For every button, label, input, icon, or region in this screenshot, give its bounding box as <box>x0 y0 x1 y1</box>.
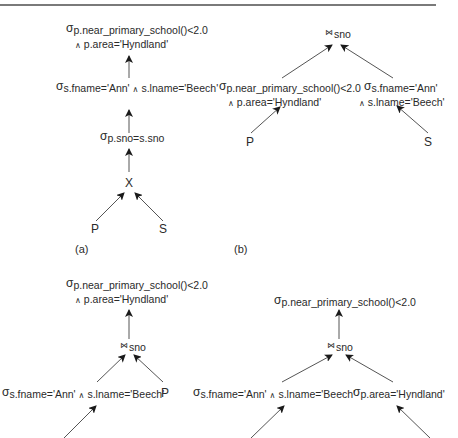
and-icon: ∧ <box>270 391 276 400</box>
panel-c-root-select-line1: σp.near_primary_school()<2.0 <box>66 277 208 289</box>
and-icon: ∧ <box>75 41 81 50</box>
panel-d-select-s: σs.fname='Ann'∧s.lname='Beech' <box>193 386 355 400</box>
panel-a-caption: (a) <box>75 243 88 255</box>
panel-a-root-select-line1: σp.near_primary_school()<2.0 <box>66 22 208 34</box>
panel-a-select-join: σp.sno=s.sno <box>100 130 164 142</box>
panel-b-join: ⋈sno <box>325 28 351 42</box>
and-icon: ∧ <box>75 296 81 305</box>
panel-d-root-select: σp.near_primary_school()<2.0 <box>274 294 416 306</box>
panel-c-join: ⋈sno <box>120 341 146 355</box>
join-icon: ⋈ <box>325 28 333 37</box>
and-icon: ∧ <box>359 99 365 108</box>
and-icon: ∧ <box>228 99 234 108</box>
panel-a-leaf-p: P <box>91 223 99 235</box>
panel-a-root-select-line2: ∧p.area='Hyndland' <box>72 38 168 52</box>
panel-c-leaf-p: P <box>161 387 169 399</box>
panel-d-join: ⋈sno <box>327 341 353 355</box>
panel-b-select-s-line1: σs.fname='Ann' <box>364 80 438 92</box>
panel-b-select-p-line2: ∧p.area='Hyndland' <box>225 96 321 110</box>
join-icon: ⋈ <box>120 341 128 350</box>
join-icon: ⋈ <box>327 341 335 350</box>
panel-b-leaf-p: P <box>246 136 254 148</box>
panel-b-caption: (b) <box>234 243 247 255</box>
panel-b-select-p-line1: σp.near_primary_school()<2.0 <box>219 80 361 92</box>
panel-a-select-s: σs.fname='Ann'∧s.lname='Beech' <box>56 80 218 94</box>
panel-c-select-s: σs.fname='Ann'∧s.lname='Beech' <box>2 386 164 400</box>
tree-edges <box>0 0 458 438</box>
panel-b-select-s-line2: ∧s.lname='Beech' <box>356 96 445 110</box>
panel-b-leaf-s: S <box>424 136 432 148</box>
and-icon: ∧ <box>133 85 139 94</box>
panel-c-root-select-line2: ∧p.area='Hyndland' <box>72 293 168 307</box>
panel-a-product: X <box>125 177 133 189</box>
panel-a-leaf-s: S <box>159 223 167 235</box>
and-icon: ∧ <box>79 391 85 400</box>
panel-d-select-p: σp.area='Hyndland' <box>353 386 445 398</box>
